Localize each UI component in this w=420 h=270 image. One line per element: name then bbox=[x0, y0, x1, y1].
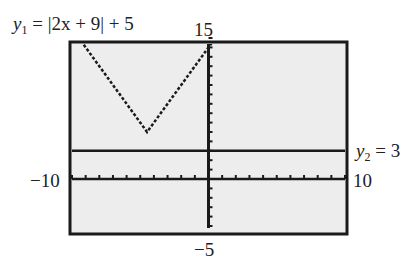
calculator-screen bbox=[0, 0, 420, 270]
